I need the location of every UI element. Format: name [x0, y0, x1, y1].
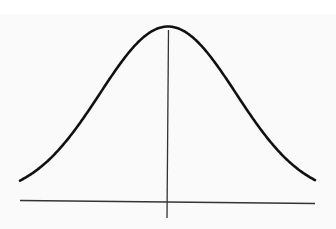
- bell-curve-figure: [0, 0, 336, 229]
- normal-distribution-diagram: [0, 0, 336, 229]
- mean-line: [167, 30, 169, 218]
